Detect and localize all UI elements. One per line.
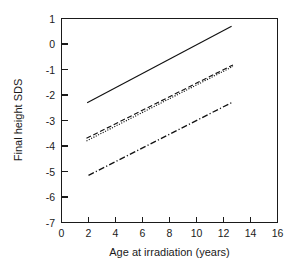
y-tick-label-m7: -7	[46, 217, 55, 229]
series-line-dash-dot	[89, 103, 232, 176]
y-axis-ticks	[62, 19, 68, 223]
y-tick-label-1: 1	[49, 13, 55, 25]
y-tick-label-m6: -6	[46, 191, 55, 203]
x-tick-label-16: 16	[272, 227, 284, 239]
y-tick-label-m5: -5	[46, 166, 55, 178]
series-line-solid	[87, 26, 231, 103]
line-chart: 0 2 4 6 8 10 12 14 16 1 0 -1 -2 -3 -4 -5…	[0, 0, 299, 273]
y-tick-label-m1: -1	[46, 64, 55, 76]
y-tick-label-m2: -2	[46, 89, 55, 101]
chart-container: 0 2 4 6 8 10 12 14 16 1 0 -1 -2 -3 -4 -5…	[0, 0, 299, 273]
x-tick-label-8: 8	[167, 227, 173, 239]
x-tick-label-2: 2	[86, 227, 92, 239]
x-tick-label-0: 0	[59, 227, 65, 239]
series-group	[86, 26, 232, 175]
plot-frame	[62, 19, 278, 223]
y-tick-label-0: 0	[49, 38, 55, 50]
x-tick-labels: 0 2 4 6 8 10 12 14 16	[59, 227, 284, 239]
x-tick-label-12: 12	[218, 227, 230, 239]
x-axis-ticks	[62, 217, 278, 223]
y-axis-title: Final height SDS	[12, 79, 24, 162]
series-line-dashed	[86, 65, 232, 138]
x-axis-title: Age at irradiation (years)	[109, 246, 229, 258]
y-tick-label-m3: -3	[46, 115, 55, 127]
x-tick-label-6: 6	[140, 227, 146, 239]
x-tick-label-14: 14	[245, 227, 257, 239]
y-tick-label-m4: -4	[46, 140, 55, 152]
x-tick-label-4: 4	[113, 227, 119, 239]
series-line-dotted	[86, 66, 232, 140]
x-tick-label-10: 10	[191, 227, 203, 239]
y-tick-labels: 1 0 -1 -2 -3 -4 -5 -6 -7	[46, 13, 56, 229]
